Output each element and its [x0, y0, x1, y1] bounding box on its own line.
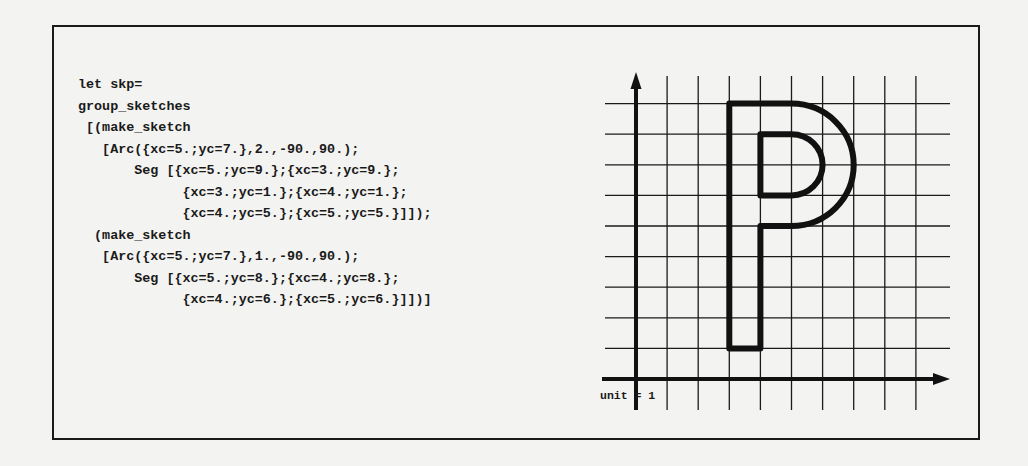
sketch-plot [0, 0, 1028, 466]
y-axis [631, 72, 642, 410]
unit-label: unit = 1 [600, 389, 655, 402]
y-axis-arrow-icon [631, 72, 642, 89]
x-axis-arrow-icon [933, 373, 950, 385]
x-axis [602, 373, 950, 385]
grid-vertical-lines [667, 76, 916, 410]
